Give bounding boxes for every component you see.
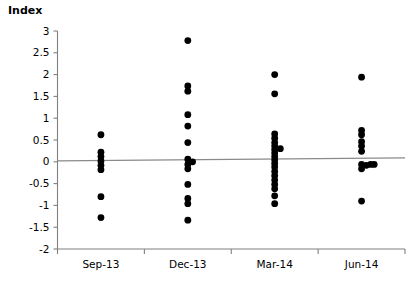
data-point bbox=[184, 88, 191, 95]
data-point bbox=[358, 74, 365, 81]
data-point bbox=[98, 131, 105, 138]
y-tick-label: 1.5 bbox=[33, 90, 50, 102]
data-point bbox=[358, 198, 365, 205]
x-tick-label: Jun-14 bbox=[344, 258, 379, 270]
plot-canvas: 32.521.510.50-0.5-1-1.5-2 Sep-13Dec-13Ma… bbox=[0, 0, 411, 285]
y-tick-label: 3 bbox=[43, 25, 50, 37]
data-points-group bbox=[98, 37, 378, 223]
y-axis-ticks: 32.521.510.50-0.5-1-1.5-2 bbox=[29, 25, 58, 255]
x-axis-ticks: Sep-13Dec-13Mar-14Jun-14 bbox=[58, 249, 406, 270]
x-tick-label: Sep-13 bbox=[82, 258, 119, 270]
data-point bbox=[98, 166, 105, 173]
data-point bbox=[184, 181, 191, 188]
data-point bbox=[98, 193, 105, 200]
data-point bbox=[184, 37, 191, 44]
y-tick-label: 2 bbox=[43, 68, 50, 80]
y-tick-label: -2 bbox=[39, 243, 49, 255]
data-point bbox=[271, 71, 278, 78]
data-point bbox=[271, 200, 278, 207]
x-tick-label: Dec-13 bbox=[169, 258, 206, 270]
data-point bbox=[184, 139, 191, 146]
y-tick-label: 0 bbox=[43, 155, 50, 167]
data-point bbox=[184, 123, 191, 130]
data-point bbox=[189, 158, 196, 165]
y-tick-label: -1 bbox=[39, 199, 49, 211]
y-tick-label: 0.5 bbox=[33, 134, 50, 146]
data-point bbox=[358, 131, 365, 138]
y-tick-label: -1.5 bbox=[29, 221, 50, 233]
data-point bbox=[184, 200, 191, 207]
data-point bbox=[184, 217, 191, 224]
data-point bbox=[358, 148, 365, 155]
data-point bbox=[271, 192, 278, 199]
data-point bbox=[271, 185, 278, 192]
y-tick-label: -0.5 bbox=[29, 177, 50, 189]
data-point bbox=[98, 214, 105, 221]
data-point bbox=[184, 165, 191, 172]
x-tick-label: Mar-14 bbox=[257, 258, 294, 270]
data-point bbox=[184, 111, 191, 118]
data-point bbox=[271, 90, 278, 97]
data-point bbox=[371, 161, 378, 168]
y-tick-label: 1 bbox=[43, 112, 50, 124]
data-point bbox=[277, 145, 284, 152]
y-tick-label: 2.5 bbox=[33, 46, 50, 58]
trend-line bbox=[58, 158, 406, 161]
scatter-chart-figure: Index 32.521.510.50-0.5-1-1.5-2 Sep-13De… bbox=[0, 0, 411, 285]
